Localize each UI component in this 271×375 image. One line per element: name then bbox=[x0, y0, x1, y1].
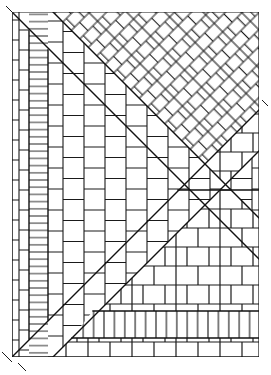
region-thin-stack-courses bbox=[29, 12, 48, 357]
brick-pattern-canvas bbox=[0, 0, 271, 375]
brick-pattern-figure bbox=[0, 0, 271, 375]
region-tall-vertical-bond bbox=[12, 12, 29, 357]
